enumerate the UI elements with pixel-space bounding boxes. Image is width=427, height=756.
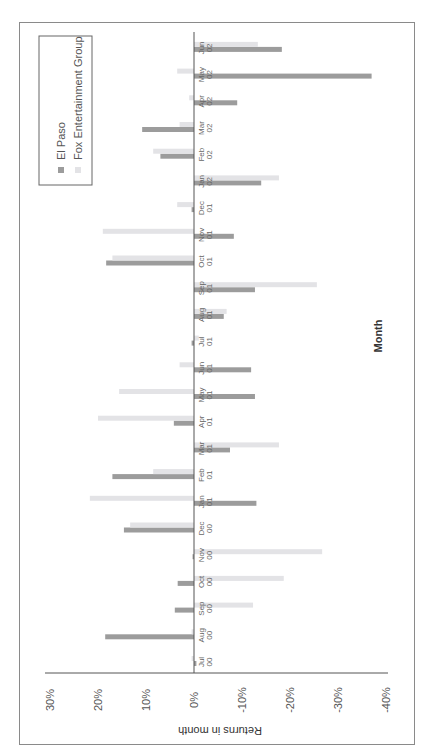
bar-fox-entertainment-group bbox=[180, 122, 194, 127]
legend-label-el-paso: El Paso bbox=[55, 122, 67, 160]
value-tick-label: 10% bbox=[140, 689, 152, 711]
category-label: 00 bbox=[205, 550, 214, 559]
value-tick-label: -20% bbox=[284, 687, 296, 713]
bar-el-paso bbox=[194, 74, 372, 79]
bar-el-paso bbox=[175, 608, 194, 613]
bar-fox-entertainment-group bbox=[130, 523, 194, 528]
bar-el-paso bbox=[174, 421, 194, 426]
bar-chart: 30%20%10%0%-10%-20%-30%-40% Jul00Aug00Se… bbox=[0, 0, 427, 756]
value-tick-label: 20% bbox=[92, 689, 104, 711]
category-label: 01 bbox=[205, 337, 214, 346]
bar-el-paso bbox=[106, 261, 194, 266]
category-label: 01 bbox=[205, 497, 214, 506]
category-label: 01 bbox=[205, 203, 214, 212]
category-label: 02 bbox=[205, 123, 214, 132]
value-axis-title: Returns in month bbox=[178, 725, 262, 737]
category-label: 02 bbox=[205, 150, 214, 159]
category-label: 02 bbox=[205, 70, 214, 79]
category-label: 02 bbox=[205, 43, 214, 52]
category-label: 01 bbox=[205, 363, 214, 372]
category-label: 00 bbox=[205, 630, 214, 639]
legend-label-fox: Fox Entertainment Group bbox=[72, 36, 84, 160]
category-label: 00 bbox=[205, 577, 214, 586]
legend-swatch-el-paso bbox=[58, 167, 64, 173]
category-axis-labels: Jul00Aug00Sep00Oct00Nov00Dec00Jan01Feb01… bbox=[197, 41, 214, 667]
bar-fox-entertainment-group bbox=[177, 202, 194, 207]
value-tick-label: -40% bbox=[380, 687, 392, 713]
category-label: 01 bbox=[205, 230, 214, 239]
bar-fox-entertainment-group bbox=[153, 469, 194, 474]
bar-el-paso bbox=[112, 474, 194, 479]
category-axis-title: Month bbox=[372, 319, 384, 352]
category-label: 01 bbox=[205, 443, 214, 452]
legend: El Paso Fox Entertainment Group bbox=[39, 36, 92, 185]
value-axis-ticks: 30%20%10%0%-10%-20%-30%-40% bbox=[44, 687, 392, 713]
category-label: 00 bbox=[205, 604, 214, 613]
category-label: 01 bbox=[205, 310, 214, 319]
bar-fox-entertainment-group bbox=[90, 496, 194, 501]
category-label: 01 bbox=[205, 257, 214, 266]
category-label: 00 bbox=[205, 657, 214, 666]
bar-fox-entertainment-group bbox=[153, 149, 194, 154]
legend-swatch-fox bbox=[75, 167, 81, 173]
bar-el-paso bbox=[160, 154, 194, 159]
category-label: 01 bbox=[205, 283, 214, 292]
bar-series-group bbox=[90, 42, 372, 666]
bar-fox-entertainment-group bbox=[119, 389, 194, 394]
bar-fox-entertainment-group bbox=[177, 69, 194, 74]
category-label: 02 bbox=[205, 96, 214, 105]
category-label: 01 bbox=[205, 390, 214, 399]
bar-el-paso bbox=[105, 634, 194, 639]
bar-fox-entertainment-group bbox=[98, 416, 194, 421]
category-label: 00 bbox=[205, 524, 214, 533]
bar-fox-entertainment-group bbox=[189, 95, 194, 100]
value-tick-label: -30% bbox=[332, 687, 344, 713]
category-label: 02 bbox=[205, 176, 214, 185]
legend-box bbox=[39, 36, 92, 185]
bar-fox-entertainment-group bbox=[103, 229, 194, 234]
value-tick-label: -10% bbox=[236, 687, 248, 713]
category-label: 01 bbox=[205, 470, 214, 479]
value-tick-label: 30% bbox=[44, 689, 56, 711]
bar-fox-entertainment-group bbox=[112, 256, 194, 261]
bar-el-paso bbox=[178, 581, 194, 586]
bar-fox-entertainment-group bbox=[180, 362, 194, 367]
category-label: 01 bbox=[205, 417, 214, 426]
value-tick-label: 0% bbox=[188, 692, 200, 708]
bar-el-paso bbox=[142, 127, 194, 132]
bar-el-paso bbox=[124, 528, 194, 533]
